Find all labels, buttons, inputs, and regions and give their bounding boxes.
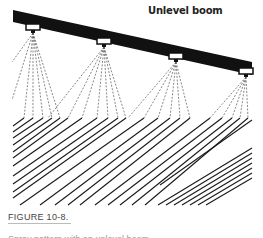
spray-fan-1 bbox=[12, 33, 60, 118]
spray-fan-3 bbox=[128, 62, 190, 118]
nozzle-2 bbox=[97, 38, 111, 47]
nozzle-3 bbox=[169, 53, 183, 62]
deposit-lines bbox=[13, 118, 252, 205]
caption-rule bbox=[8, 223, 71, 224]
nozzle-4 bbox=[239, 68, 253, 77]
caption-continuation: Spray pattern with an unlevel boom bbox=[8, 232, 149, 238]
nozzle-1 bbox=[26, 24, 40, 33]
figure-unlevel-boom: Unlevel boom FIGURE 10-8. Spray pattern … bbox=[0, 0, 263, 238]
figure-title: Unlevel boom bbox=[148, 5, 223, 16]
figure-caption: FIGURE 10-8. bbox=[8, 212, 69, 222]
spray-fan-4 bbox=[210, 77, 248, 118]
spray-fan-2 bbox=[48, 47, 126, 118]
boom-diagram bbox=[0, 0, 263, 238]
boom-bar bbox=[13, 10, 252, 75]
